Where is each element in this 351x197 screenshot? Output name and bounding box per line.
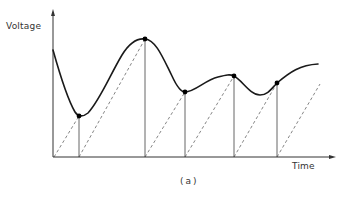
y-axis-arrow-icon (51, 9, 55, 16)
sample-dot (232, 74, 237, 79)
sample-dot (77, 114, 82, 119)
ramp-line (185, 76, 234, 157)
axes (51, 9, 336, 159)
ramp-line (145, 92, 185, 157)
x-axis-label: Time (292, 161, 315, 171)
sample-lines (79, 39, 277, 157)
sampling-waveform-figure: Voltage Time (a) (0, 0, 351, 197)
ramp-lines (54, 39, 320, 157)
ramp-line (54, 116, 79, 157)
sample-dot (183, 90, 188, 95)
y-axis-label: Voltage (6, 21, 41, 31)
ramp-line (277, 84, 320, 157)
ramp-line (79, 39, 145, 157)
sample-points (77, 37, 280, 119)
sample-dot (275, 81, 280, 86)
sample-dot (143, 37, 148, 42)
voltage-waveform (53, 39, 318, 116)
figure-caption: (a) (180, 176, 199, 186)
x-axis-arrow-icon (329, 155, 336, 159)
